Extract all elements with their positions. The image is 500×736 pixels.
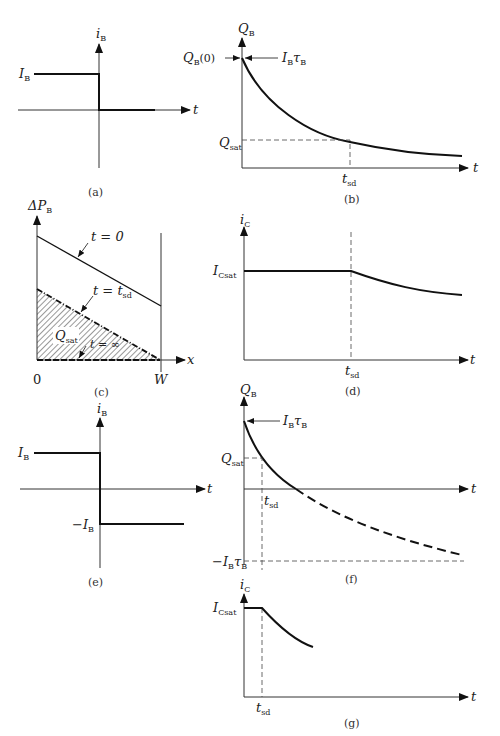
panel-f: QB t IBτB Qsat tsd −IBτB (f): [212, 382, 477, 586]
g-x-label: t: [471, 689, 477, 704]
f-qb-curve-dashed: [296, 489, 462, 555]
a-x-label: t: [193, 102, 199, 117]
e-pos-label: IB: [17, 445, 29, 462]
b-x-label: t: [473, 160, 479, 175]
e-neg-label: −IB: [72, 517, 94, 534]
c-t0-pointer: [78, 243, 88, 257]
panel-g: iC t ICsat tsd (g): [212, 577, 477, 730]
e-y-label: iB: [97, 401, 107, 418]
d-tsd-label: tsd: [345, 363, 359, 380]
g-caption: (g): [344, 717, 360, 730]
c-y-label: ΔPB: [27, 198, 52, 215]
a-level-label: IB: [18, 66, 30, 83]
panel-a: iB t IB (a): [18, 26, 199, 199]
f-qsat-guide: [244, 458, 262, 570]
b-caption: (b): [344, 193, 360, 206]
c-t0-label: t = 0: [91, 229, 124, 244]
a-ib-waveform: [34, 74, 155, 110]
d-y-label: iC: [240, 212, 250, 229]
d-x-label: t: [470, 352, 476, 367]
g-ic-waveform: [244, 608, 313, 647]
f-y-label: QB: [240, 382, 257, 399]
c-origin-label: 0: [33, 372, 41, 387]
b-qsat-label: Qsat: [219, 135, 243, 152]
f-ibtau-label: IBτB: [282, 413, 307, 430]
c-caption: (c): [94, 386, 109, 399]
f-tsd-label: tsd: [264, 493, 278, 510]
a-caption: (a): [88, 186, 103, 199]
b-tsd-label: tsd: [342, 171, 356, 188]
b-q0-label: QB(0): [183, 50, 215, 67]
g-icsat-label: ICsat: [212, 600, 237, 617]
c-tinf-label: t = ∞: [90, 338, 120, 351]
b-y-label: QB: [238, 21, 255, 38]
transistor-switching-figure: iB t IB (a) QB t QB(0) IBτB Qsat tsd (b)…: [0, 0, 500, 736]
g-y-label: iC: [240, 577, 250, 594]
f-x-label: t: [471, 481, 477, 496]
a-y-label: iB: [96, 26, 106, 43]
c-tsd-pointer: [81, 296, 93, 312]
f-qb-curve-solid: [244, 421, 296, 489]
f-neg-label: −IBτB: [212, 554, 247, 571]
g-tsd-label: tsd: [256, 700, 270, 717]
d-caption: (d): [345, 385, 361, 398]
b-ibtau-label: IBτB: [281, 50, 306, 67]
panel-d: iC t ICsat tsd (d): [212, 212, 476, 398]
e-caption: (e): [88, 576, 103, 589]
c-x-label: x: [187, 352, 195, 367]
e-x-label: t: [207, 481, 213, 496]
panel-c: ΔPB x 0 W t = 0 t = tsd t = ∞ Qsat (c): [27, 198, 195, 399]
d-icsat-label: ICsat: [212, 263, 237, 280]
f-qsat-label: Qsat: [221, 451, 245, 468]
d-ic-waveform: [244, 271, 462, 295]
c-w-label: W: [154, 372, 169, 387]
b-qb-decay-curve: [242, 58, 462, 156]
panel-e: iB t IB −IB (e): [17, 401, 213, 589]
b-qsat-guide: [242, 140, 350, 168]
panel-b: QB t QB(0) IBτB Qsat tsd (b): [183, 21, 479, 206]
f-caption: (f): [345, 573, 358, 586]
